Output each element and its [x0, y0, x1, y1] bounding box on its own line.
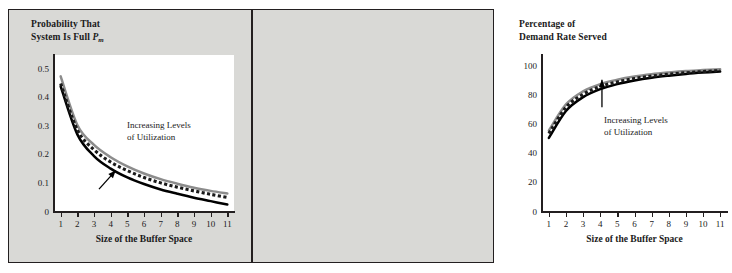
series-line — [61, 86, 228, 204]
chart-panel-percentage: Percentage of Demand Rate Served 0204060… — [251, 10, 493, 262]
annotation-left-line2: of Utilization — [127, 132, 175, 142]
annotation-left-line1: Increasing Levels — [127, 120, 191, 130]
annotation-left: Increasing Levels of Utilization — [127, 120, 191, 143]
figure-panel: Probability That System Is Full Pm 00.10… — [8, 9, 494, 263]
annotation-right: Increasing Levels of Utilization — [604, 115, 668, 138]
chart-panel-probability: Probability That System Is Full Pm 00.10… — [9, 10, 251, 262]
x-axis-title-right: Size of the Buffer Space — [542, 234, 727, 244]
x-axis-title-left: Size of the Buffer Space — [54, 234, 234, 244]
annotation-right-line2: of Utilization — [604, 127, 652, 137]
annotation-right-line1: Increasing Levels — [604, 115, 668, 125]
